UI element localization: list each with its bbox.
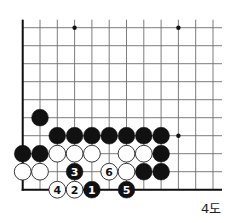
- white-stone: [14, 163, 31, 180]
- white-stone: [135, 145, 152, 162]
- white-stone: [84, 145, 101, 162]
- white-stone: [32, 163, 49, 180]
- move-number: 6: [105, 166, 113, 179]
- black-stone: [118, 127, 135, 144]
- star-point-icon: [176, 134, 180, 138]
- black-stone: [135, 127, 152, 144]
- star-point-icon: [72, 26, 76, 30]
- white-stone: [66, 145, 83, 162]
- white-stone: [49, 145, 66, 162]
- white-stone: [118, 145, 135, 162]
- go-board: 364215: [0, 0, 237, 223]
- black-stone: [101, 127, 118, 144]
- move-number: 3: [71, 166, 79, 179]
- black-stone: [66, 127, 83, 144]
- black-stone: [32, 109, 49, 126]
- go-diagram: 364215 4도: [0, 0, 237, 223]
- black-stone: [135, 163, 152, 180]
- move-number: 5: [123, 184, 131, 197]
- star-point-icon: [176, 26, 180, 30]
- black-stone: [153, 127, 170, 144]
- diagram-caption: 4도: [201, 198, 220, 217]
- black-stone: [49, 127, 66, 144]
- black-stone: [153, 163, 170, 180]
- move-number: 2: [71, 184, 79, 197]
- move-number: 4: [53, 184, 61, 197]
- white-stone: [118, 163, 135, 180]
- black-stone: [14, 145, 31, 162]
- black-stone: [153, 145, 170, 162]
- black-stone: [84, 127, 101, 144]
- black-stone: [32, 145, 49, 162]
- move-number: 1: [88, 184, 96, 197]
